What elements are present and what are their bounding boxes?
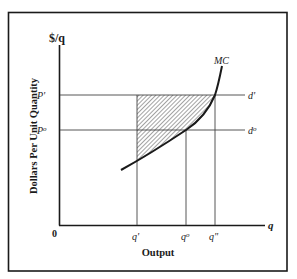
quantity-label-q-double: q": [209, 231, 219, 242]
quantity-label-q-prime: q': [132, 231, 140, 242]
origin-label: 0: [52, 228, 57, 239]
demand-label-d-prime: d': [248, 90, 256, 101]
price-label-p-prime: P': [36, 90, 46, 101]
x-axis-title: Output: [142, 247, 175, 258]
x-axis-unit-label: q: [268, 219, 274, 231]
demand-label-d-zero: do: [248, 125, 257, 136]
price-label-p-zero: Po: [36, 125, 47, 136]
diagram-canvas: $/q Dollars Per Unit Quantity P' Po d' d…: [0, 0, 297, 279]
quantity-label-q-zero: qo: [181, 231, 190, 242]
mc-curve-label: MC: [213, 55, 229, 66]
y-axis-unit-label: $/q: [49, 31, 65, 45]
